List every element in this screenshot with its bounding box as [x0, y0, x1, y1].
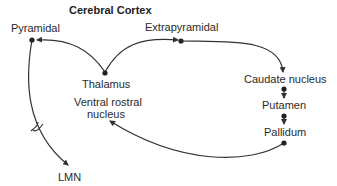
caudate-dot	[281, 86, 286, 91]
pallidum-to-ventral-rostral-arrow	[110, 121, 284, 157]
label-thalamus: Thalamus	[82, 78, 130, 90]
thalamus-to-pyramidal-arrow	[37, 40, 105, 72]
thalamus-dot	[102, 70, 107, 75]
diagram-title: Cerebral Cortex	[69, 4, 152, 16]
label-putamen: Putamen	[262, 99, 306, 111]
label-ventral-rostral-line1: Ventral rostral	[74, 96, 142, 108]
extrapyramidal-to-caudate-arrow	[181, 41, 283, 72]
pyramidal-dot	[29, 37, 34, 42]
pyramidal-to-lmn-arrow	[29, 40, 68, 165]
label-lmn: LMN	[58, 171, 81, 183]
pallidum-dot	[281, 140, 286, 145]
thalamus-to-extrapyramidal-arrow	[105, 39, 178, 72]
label-caudate-nucleus: Caudate nucleus	[244, 73, 327, 85]
label-ventral-rostral-line2: nucleus	[87, 108, 125, 120]
label-pyramidal: Pyramidal	[11, 22, 60, 34]
extrapyramidal-dot	[178, 38, 183, 43]
putamen-dot	[281, 113, 286, 118]
label-extrapyramidal: Extrapyramidal	[145, 21, 218, 33]
label-pallidum: Pallidum	[264, 126, 306, 138]
